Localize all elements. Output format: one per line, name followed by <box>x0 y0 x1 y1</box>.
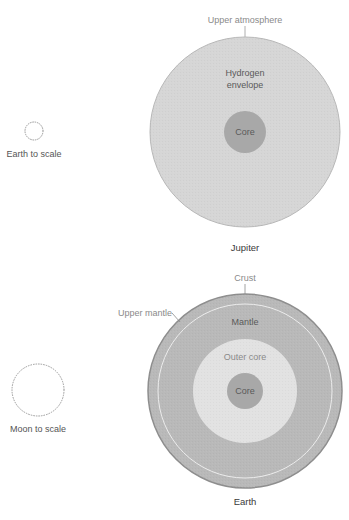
hydrogen-envelope-label-line1: Hydrogen <box>225 68 264 78</box>
moon-scale-dotted-circle <box>12 364 64 416</box>
earth-to-scale-label: Earth to scale <box>6 149 61 159</box>
upper-atmosphere-label: Upper atmosphere <box>208 15 283 25</box>
earth-to-scale-reference: Earth to scale <box>6 122 61 159</box>
outer-core-label: Outer core <box>224 352 267 362</box>
earth-diagram: Crust Upper mantle Mantle Outer core Cor… <box>118 273 342 507</box>
jupiter-title: Jupiter <box>231 242 260 253</box>
earth-title: Earth <box>234 496 257 507</box>
earth-core-label: Core <box>235 386 255 396</box>
moon-to-scale-reference: Moon to scale <box>10 364 66 434</box>
hydrogen-envelope-label-line2: envelope <box>227 80 264 90</box>
crust-label: Crust <box>234 273 256 283</box>
upper-mantle-leader-line <box>172 313 180 322</box>
upper-mantle-label: Upper mantle <box>118 308 172 318</box>
earth-scale-dotted-circle <box>25 122 43 140</box>
mantle-label: Mantle <box>231 317 258 327</box>
planet-interior-diagram: Upper atmosphere Hydrogen envelope Core … <box>0 0 349 520</box>
jupiter-core-label: Core <box>235 127 255 137</box>
moon-to-scale-label: Moon to scale <box>10 424 66 434</box>
jupiter-diagram: Upper atmosphere Hydrogen envelope Core … <box>150 15 340 253</box>
